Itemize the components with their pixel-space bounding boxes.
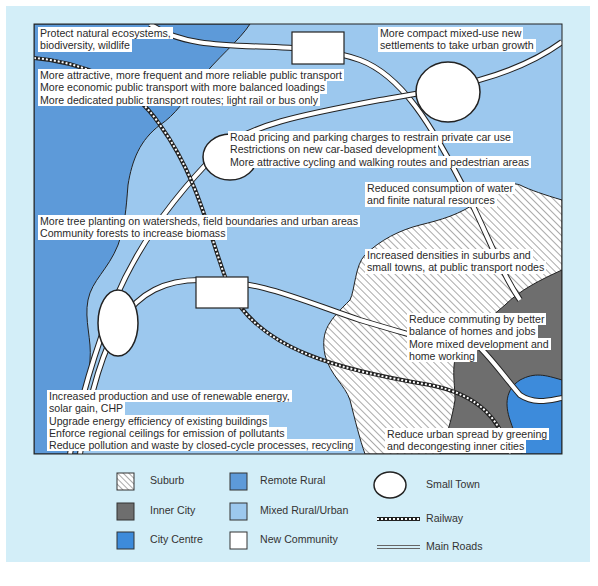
legend-swatch-new-community [230, 532, 247, 549]
legend-remote-rural: Remote Rural [260, 474, 325, 486]
annotation-trees: More tree planting on watersheds, field … [38, 215, 360, 240]
legend-inner-city: Inner City [150, 504, 195, 516]
legend-swatch-mixed-rural-urban [230, 503, 247, 520]
legend-suburb: Suburb [150, 474, 184, 486]
legend-swatch-city-centre [117, 532, 134, 549]
legend-new-community: New Community [260, 533, 338, 545]
annotation-ecosystems: Protect natural ecosystems, biodiversity… [38, 27, 173, 52]
legend-small-town: Small Town [426, 478, 480, 490]
annotation-public-transport: More attractive, more frequent and more … [38, 69, 344, 106]
annotation-urban-spread: Reduce urban spread by greening and deco… [385, 428, 549, 453]
legend-city-centre: City Centre [150, 533, 203, 545]
legend-swatch-remote-rural [230, 473, 247, 490]
legend-railway: Railway [426, 512, 463, 524]
legend-swatch-small-town [374, 472, 406, 498]
legend-swatch-suburb [117, 473, 134, 490]
annotation-road-pricing: Road pricing and parking charges to rest… [228, 131, 531, 168]
annotation-water: Reduced consumption of water and finite … [365, 182, 515, 207]
new-community-north [292, 32, 344, 64]
annotation-commuting: Reduce commuting by better balance of ho… [407, 313, 551, 362]
annotation-settlements: More compact mixed-use new settlements t… [378, 27, 536, 52]
legend-mixed-rural-urban: Mixed Rural/Urban [260, 504, 348, 516]
legend-main-roads: Main Roads [426, 540, 483, 552]
legend-swatch-inner-city [117, 503, 134, 520]
new-community-south [196, 277, 248, 308]
small-town-east [416, 62, 480, 122]
annotation-densities: Increased densities in suburbs and small… [365, 249, 546, 274]
small-town-west [98, 290, 138, 356]
annotation-energy: Increased production and use of renewabl… [47, 390, 355, 451]
